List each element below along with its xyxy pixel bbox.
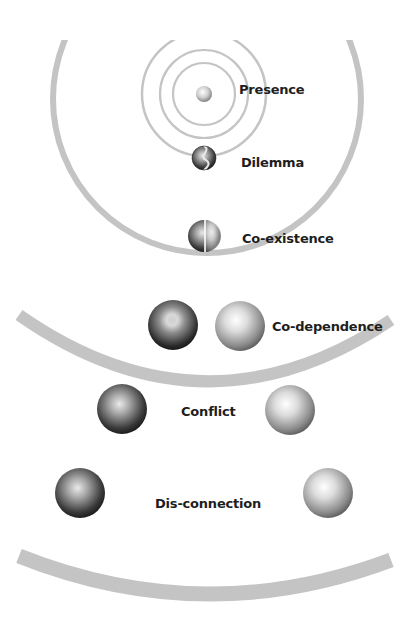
label-presence: Presence (239, 83, 305, 96)
label-dis-connection: Dis-connection (155, 497, 261, 510)
conflict-sphere-dark (97, 384, 147, 434)
label-dilemma: Dilemma (241, 156, 304, 169)
co-dependence-sphere-light (215, 301, 265, 351)
bottom-arc (19, 556, 391, 594)
label-co-existence: Co-existence (242, 232, 334, 245)
label-conflict: Conflict (181, 405, 236, 418)
dis-connection-sphere-light (303, 468, 353, 518)
co-dependence-sphere-dark (148, 300, 198, 350)
relationship-levels-diagram: Presence Dilemma Co-existence Co-depende… (0, 0, 409, 620)
label-co-dependence: Co-dependence (272, 320, 383, 333)
dilemma-sphere (192, 146, 216, 170)
dis-connection-sphere-dark (55, 468, 105, 518)
diagram-graphics (0, 0, 409, 620)
conflict-sphere-light (265, 385, 315, 435)
presence-sphere (196, 86, 212, 102)
co-existence-sphere (188, 220, 221, 252)
outer-arc (53, 0, 361, 253)
